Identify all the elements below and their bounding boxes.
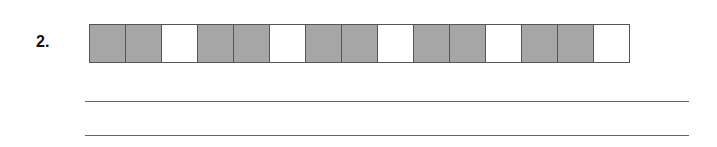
shaded-cell [450, 25, 486, 62]
answer-line-2[interactable] [85, 135, 689, 136]
shaded-cell [90, 25, 126, 62]
shaded-cell-strip [89, 24, 630, 63]
shaded-cell [198, 25, 234, 62]
blank-cell [594, 25, 630, 62]
shaded-cell [342, 25, 378, 62]
shaded-cell [234, 25, 270, 62]
shaded-cell [414, 25, 450, 62]
blank-cell [162, 25, 198, 62]
shaded-cell [306, 25, 342, 62]
shaded-cell [522, 25, 558, 62]
shaded-cell [558, 25, 594, 62]
shaded-cell [126, 25, 162, 62]
blank-cell [486, 25, 522, 62]
blank-cell [270, 25, 306, 62]
blank-cell [378, 25, 414, 62]
answer-line-1[interactable] [85, 101, 689, 102]
question-number: 2. [36, 33, 49, 51]
